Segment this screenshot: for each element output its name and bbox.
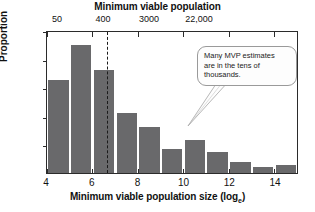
bar-bin-1 <box>71 45 91 173</box>
y-axis-title: Proportion <box>0 11 9 62</box>
x-tick-label-4: 4 <box>43 177 49 188</box>
mvp-callout: Many MVP estimates are in the tens of th… <box>197 46 297 86</box>
x-tick-label-12: 12 <box>224 177 235 188</box>
x-tick-label-6: 6 <box>89 177 95 188</box>
bar-bin-2 <box>94 70 114 173</box>
bar-bin-4 <box>139 127 159 173</box>
figure: Minimum viable population 50 400 3000 22… <box>0 0 315 212</box>
x-tick-label-8: 8 <box>135 177 141 188</box>
bar-bin-8 <box>230 162 250 173</box>
top-tick-label-50: 50 <box>52 14 62 24</box>
bar-bin-10 <box>276 165 296 173</box>
bar-bin-6 <box>185 140 205 173</box>
callout-line-2: are in the tens of <box>204 61 291 71</box>
bar-bin-3 <box>117 113 137 173</box>
y-tick-0.05 <box>43 146 47 147</box>
top-tick-12 <box>229 32 230 37</box>
bar-bin-7 <box>207 152 227 173</box>
top-tick-label-400: 400 <box>95 14 110 24</box>
x-tick-label-14: 14 <box>270 177 281 188</box>
y-tick-0.15 <box>43 89 47 90</box>
y-tick-0.10 <box>43 118 47 119</box>
top-axis-title: Minimum viable population <box>0 1 315 12</box>
x-axis-title-close: ) <box>242 191 245 202</box>
top-tick-10 <box>183 32 184 37</box>
top-tick-8 <box>138 32 139 37</box>
top-tick-label-3000: 3000 <box>139 14 159 24</box>
bar-bin-5 <box>162 149 182 173</box>
callout-line-1: Many MVP estimates <box>204 51 291 61</box>
callout-line-3: thousands. <box>204 70 291 80</box>
top-tick-6 <box>92 32 93 37</box>
x-tick-label-10: 10 <box>178 177 189 188</box>
x-axis-title: Minimum viable population size (loge) <box>0 191 315 204</box>
y-tick-0.20 <box>43 61 47 62</box>
bar-bin-0 <box>48 80 68 173</box>
top-tick-label-22000: 22,000 <box>185 14 213 24</box>
bar-bin-9 <box>253 167 273 173</box>
top-tick-4 <box>47 32 48 37</box>
top-tick-14 <box>274 32 275 37</box>
x-axis-title-main: Minimum viable population size (log <box>70 191 238 202</box>
reference-dashed-line <box>107 32 108 173</box>
